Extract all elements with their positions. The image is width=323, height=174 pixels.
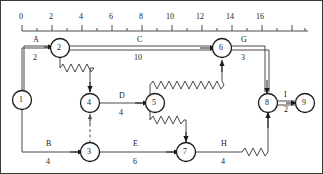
node-label-3: 3: [87, 147, 91, 156]
float-link-5-7: [150, 110, 186, 142]
axis-tick-label-8: 8: [139, 12, 143, 21]
activity-path-G: [230, 46, 269, 94]
axis-tick-label-6: 6: [109, 12, 113, 21]
duration-label-H: 4: [221, 157, 225, 166]
duration-label-C: 10: [134, 53, 142, 62]
node-label-9: 9: [302, 98, 306, 107]
activity-label-D: D: [119, 91, 125, 100]
activity-label-G: G: [241, 35, 247, 44]
node-label-8: 8: [265, 98, 269, 107]
axis-tick-label-16: 16: [256, 12, 264, 21]
activity-label-A: A: [33, 35, 39, 44]
network-diagram-canvas: 0 2 4 6 8 10 12 14 16 A 2 B 4 C 10 D 4 E…: [0, 0, 323, 174]
float-link-5-6: [150, 60, 224, 96]
axis-tick-label-4: 4: [79, 12, 83, 21]
node-label-1: 1: [19, 95, 23, 104]
axis-tick-label-2: 2: [49, 12, 53, 21]
activity-path-H: [195, 112, 268, 156]
activity-path-B: [22, 109, 84, 152]
node-label-5: 5: [152, 98, 156, 107]
activity-label-B: B: [46, 139, 51, 148]
activity-label-H: H: [221, 139, 227, 148]
node-label-2: 2: [57, 43, 61, 52]
duration-label-A: 2: [33, 53, 37, 62]
axis-tick-label-0: 0: [19, 12, 23, 21]
duration-label-I: 2: [284, 105, 288, 114]
activity-path-C: [68, 46, 216, 50]
activity-label-E: E: [133, 139, 138, 148]
axis-tick-label-14: 14: [226, 12, 234, 21]
duration-label-E: 6: [133, 157, 137, 166]
node-label-6: 6: [219, 43, 223, 52]
node-label-7: 7: [183, 147, 187, 156]
node-label-4: 4: [87, 98, 91, 107]
axis-tick-label-10: 10: [166, 12, 174, 21]
activity-label-C: C: [137, 35, 142, 44]
activity-label-I: I: [284, 90, 287, 99]
duration-label-D: 4: [119, 108, 123, 117]
duration-label-B: 4: [46, 157, 50, 166]
duration-label-G: 3: [241, 53, 245, 62]
float-link-2-4: [60, 57, 94, 92]
axis-tick-label-12: 12: [196, 12, 204, 21]
time-axis: [22, 25, 308, 31]
